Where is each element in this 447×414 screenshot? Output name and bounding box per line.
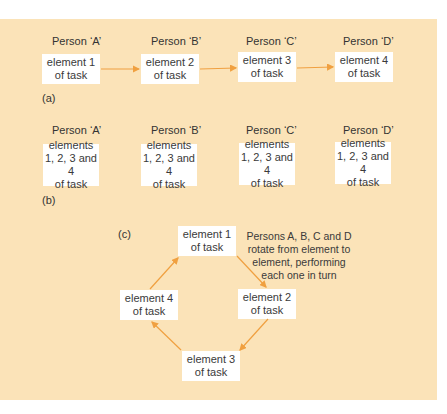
box-text: element 3 [243,54,291,67]
box-text: elements [245,138,290,151]
box-text: of task [251,67,283,80]
panel-a-label: (a) [42,92,55,104]
note-line: rotate from element to [243,243,355,256]
box-text: 1, 2, 3 and 4 [141,152,197,178]
box-text: of task [191,241,223,254]
box-text: element 2 [146,56,194,69]
all-elements-box-d: elements 1, 2, 3 and 4 of task [335,142,391,184]
panel-b-label: (b) [42,194,55,206]
all-elements-box-b: elements 1, 2, 3 and 4 of task [141,144,197,186]
person-c-label: Person ‘C’ [246,35,297,47]
person-a-label: Person ‘A’ [52,35,101,47]
box-text: of task [133,305,165,318]
box-text: element 1 [47,56,95,69]
box-text: of task [251,304,283,317]
box-text: 1, 2, 3 and 4 [43,152,99,178]
box-text: elements [147,139,192,152]
box-text: element 4 [125,292,173,305]
note-line: element, performing [243,256,355,269]
box-text: 1, 2, 3 and 4 [239,151,295,177]
person-b-label: Person ‘B’ [151,124,201,136]
box-text: of task [154,69,186,82]
box-text: element 4 [340,54,388,67]
cycle-element-1-box: element 1 of task [178,226,236,256]
element-4-box: element 4 of task [335,52,393,82]
cycle-element-2-box: element 2 of task [238,289,296,319]
person-d-label: Person ‘D’ [343,124,394,136]
box-text: of task [153,178,185,191]
element-2-box: element 2 of task [141,54,199,84]
box-text: of task [195,366,227,379]
note-line: each one in turn [243,269,355,282]
panel-c-label: (c) [118,228,131,240]
cycle-element-3-box: element 3 of task [182,351,240,381]
person-a-label: Person ‘A’ [52,124,101,136]
element-1-box: element 1 of task [42,54,100,84]
box-text: elements [49,139,94,152]
box-text: of task [55,178,87,191]
box-text: elements [341,137,386,150]
person-b-label: Person ‘B’ [151,35,201,47]
cycle-element-4-box: element 4 of task [120,290,178,320]
note-line: Persons A, B, C and D [243,230,355,243]
box-text: of task [348,67,380,80]
box-text: of task [55,69,87,82]
box-text: of task [347,176,379,189]
person-c-label: Person ‘C’ [246,124,297,136]
box-text: element 1 [183,228,231,241]
element-3-box: element 3 of task [238,52,296,82]
person-d-label: Person ‘D’ [343,35,394,47]
box-text: 1, 2, 3 and 4 [335,150,391,176]
box-text: element 2 [243,291,291,304]
box-text: element 3 [187,353,235,366]
all-elements-box-a: elements 1, 2, 3 and 4 of task [43,144,99,186]
box-text: of task [251,177,283,190]
rotation-note: Persons A, B, C and D rotate from elemen… [243,230,355,282]
all-elements-box-c: elements 1, 2, 3 and 4 of task [239,143,295,185]
